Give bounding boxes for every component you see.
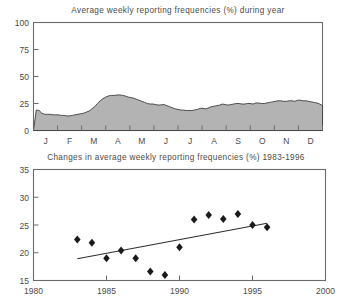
data-point-1995 (249, 221, 256, 229)
data-point-1983 (74, 235, 81, 243)
data-point-1988 (147, 268, 154, 276)
y-tick-label-100: 100 (15, 18, 29, 28)
x-tick-label-J-6: J (188, 136, 192, 146)
x-tick-label-N-10: N (283, 136, 289, 146)
data-point-1984 (89, 239, 96, 247)
charts-svg: Average weekly reporting frequencies (%)… (0, 0, 340, 303)
y-tick-label-75: 75 (20, 45, 30, 55)
y-tick-label-15: 15 (20, 276, 30, 286)
annual-trend-scatter: Changes in average weekly reporting freq… (20, 153, 336, 296)
y-tick-label-35: 35 (20, 165, 30, 175)
x-tick-label-1995: 1995 (243, 286, 262, 296)
data-point-1989 (162, 271, 169, 279)
x-tick-label-1980: 1980 (24, 286, 43, 296)
figure-container: Average weekly reporting frequencies (%)… (0, 0, 340, 303)
x-tick-label-O-9: O (259, 136, 266, 146)
data-point-1987 (132, 254, 139, 262)
data-point-1986 (118, 247, 125, 255)
data-point-1993 (220, 215, 227, 223)
x-tick-label-F-1: F (67, 136, 72, 146)
trend-line (77, 223, 267, 259)
y-tick-label-50: 50 (20, 72, 30, 82)
data-point-1996 (264, 223, 271, 231)
data-point-1992 (205, 211, 212, 219)
x-tick-label-M-4: M (138, 136, 145, 146)
x-tick-label-S-8: S (235, 136, 241, 146)
x-tick-label-J-5: J (164, 136, 168, 146)
x-tick-label-1990: 1990 (170, 286, 189, 296)
data-point-1990 (176, 243, 183, 251)
chart-title-trend: Changes in average weekly reporting freq… (47, 153, 305, 162)
y-tick-label-30: 30 (20, 193, 30, 203)
plot-frame-trend (34, 170, 326, 281)
y-axis-trend: 35 30 25 20 15 (20, 165, 39, 286)
x-tick-label-A-3: A (115, 136, 121, 146)
y-tick-label-25: 25 (20, 221, 30, 231)
data-point-1985 (103, 254, 110, 262)
x-tick-label-A-7: A (211, 136, 217, 146)
chart-title-seasonal: Average weekly reporting frequencies (%)… (71, 6, 284, 15)
x-tick-label-J-0: J (43, 136, 47, 146)
x-tick-label-D-11: D (307, 136, 313, 146)
x-tick-label-2000: 2000 (316, 286, 335, 296)
x-tick-label-1985: 1985 (97, 286, 116, 296)
x-tick-label-M-2: M (90, 136, 97, 146)
data-point-1991 (191, 215, 198, 223)
x-axis-trend: 19801985199019952000 (24, 276, 335, 297)
seasonal-area-chart: Average weekly reporting frequencies (%)… (15, 6, 323, 146)
area-series-seasonal (34, 95, 323, 131)
y-tick-label-20: 20 (20, 248, 30, 258)
y-tick-label-0: 0 (24, 126, 29, 136)
scatter-series (74, 210, 270, 279)
y-tick-label-25: 25 (20, 99, 30, 109)
data-point-1994 (235, 210, 242, 218)
